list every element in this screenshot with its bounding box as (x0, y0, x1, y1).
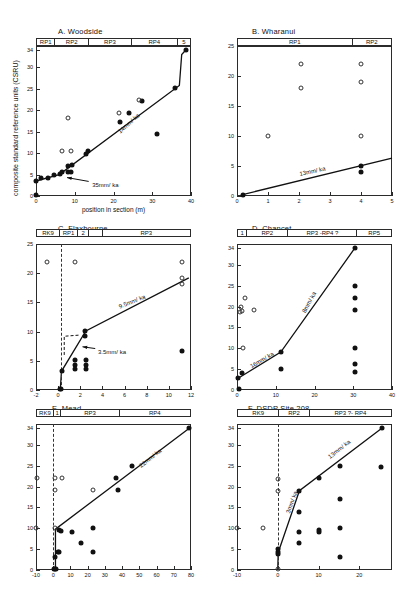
data-point-solid (297, 540, 302, 545)
y-tick-label-A-1: 5 (19, 172, 33, 178)
y-tick-F-6 (237, 445, 241, 446)
data-point-open (65, 116, 70, 121)
y-tick-label-A-5: 25 (19, 86, 33, 92)
x-tick-label-E-6: 50 (136, 572, 142, 578)
x-tick-label-C-6: 10 (166, 392, 172, 398)
y-tick-label-E-0: 0 (19, 567, 33, 573)
data-point-solid (38, 176, 43, 181)
zone-A-2: RP3 (89, 39, 132, 45)
x-tick-label-A-4: 40 (188, 198, 194, 204)
data-point-open (359, 62, 364, 67)
y-tick-E-5 (36, 466, 40, 467)
data-point-solid (46, 175, 51, 180)
x-tick-E-6 (139, 566, 140, 570)
data-point-solid (129, 463, 134, 468)
y-tick-label-D-2: 10 (220, 345, 234, 351)
data-point-open (242, 296, 247, 301)
data-point-open (275, 567, 280, 572)
y-tick-A-4 (36, 110, 40, 111)
zone-bar-A: RP1RP2RP3RP45 (36, 38, 191, 46)
x-tick-label-C-0: -2 (34, 392, 39, 398)
y-tick-label-D-4: 20 (220, 304, 234, 310)
plot-area-F (237, 424, 392, 570)
y-tick-C-0 (36, 390, 40, 391)
zone-C-2: 2 (78, 230, 89, 236)
data-point-open (72, 259, 77, 264)
x-tick-label-A-2: 20 (110, 198, 116, 204)
data-point-solid (53, 566, 58, 571)
data-point-solid (60, 369, 65, 374)
data-point-open (276, 488, 281, 493)
data-point-solid (278, 367, 283, 372)
y-tick-C-3 (36, 302, 40, 303)
zone-C-1: RP1 (60, 230, 78, 236)
x-tick-label-E-0: -10 (32, 572, 40, 578)
data-point-solid (297, 509, 302, 514)
x-tick-B-4 (361, 192, 362, 196)
y-tick-C-5 (36, 244, 40, 245)
y-tick-label-E-5: 25 (19, 463, 33, 469)
x-tick-D-2 (315, 386, 316, 390)
data-point-solid (60, 170, 65, 175)
y-tick-F-3 (237, 507, 241, 508)
data-point-solid (173, 85, 178, 90)
y-tick-label-A-6: 30 (19, 64, 33, 70)
data-point-solid (352, 246, 357, 251)
data-point-solid (359, 164, 364, 169)
y-tick-B-2 (237, 136, 241, 137)
y-tick-B-5 (237, 46, 241, 47)
data-point-solid (276, 552, 281, 557)
x-tick-B-1 (268, 192, 269, 196)
data-point-solid (240, 371, 245, 376)
y-tick-label-E-2: 10 (19, 525, 33, 531)
y-tick-label-E-1: 5 (19, 546, 33, 552)
y-tick-label-D-5: 25 (220, 283, 234, 289)
y-tick-F-1 (237, 549, 241, 550)
y-tick-F-5 (237, 466, 241, 467)
zone-C-0: RK9 (37, 230, 60, 236)
data-point-open (34, 476, 39, 481)
y-tick-E-6 (36, 445, 40, 446)
y-tick-D-6 (237, 265, 241, 266)
y-tick-label-F-4: 20 (220, 484, 234, 490)
data-point-solid (240, 192, 245, 197)
zone-bar-E: RK91RP3RP4 (36, 409, 191, 417)
data-point-open (298, 86, 303, 91)
x-tick-label-B-2: 2 (297, 198, 300, 204)
data-point-solid (183, 48, 188, 53)
zone-bar-B: RP1RP2 (237, 38, 392, 46)
data-point-solid (317, 476, 322, 481)
zone-F-1: RP2 (279, 410, 310, 416)
y-tick-label-C-1: 5 (19, 358, 33, 364)
x-tick-B-3 (330, 192, 331, 196)
x-tick-label-E-8: 70 (171, 572, 177, 578)
zone-B-0: RP1 (238, 39, 353, 45)
rate-label-C-1: 3.5mm/ ka (98, 349, 126, 355)
y-tick-label-F-6: 30 (220, 442, 234, 448)
y-tick-E-7 (36, 428, 40, 429)
x-tick-label-F-3: 20 (356, 572, 362, 578)
zone-C-4: RP3 (103, 230, 190, 236)
zone-boundary-dashed-E (53, 424, 54, 570)
data-point-solid (155, 132, 160, 137)
data-point-solid (114, 475, 119, 480)
data-point-solid (337, 464, 342, 469)
x-axis-label: position in section (m) (36, 206, 191, 213)
data-point-open (53, 476, 58, 481)
y-tick-label-C-2: 10 (19, 329, 33, 335)
zone-E-3: RP4 (120, 410, 190, 416)
x-tick-label-C-4: 6 (123, 392, 126, 398)
x-tick-label-E-5: 40 (119, 572, 125, 578)
data-point-solid (51, 173, 56, 178)
x-tick-E-4 (105, 566, 106, 570)
y-tick-B-1 (237, 166, 241, 167)
zone-C-3 (89, 230, 103, 236)
data-point-solid (379, 426, 384, 431)
y-tick-label-D-6: 30 (220, 262, 234, 268)
x-tick-E-8 (174, 566, 175, 570)
x-tick-label-B-3: 3 (328, 198, 331, 204)
data-point-open (298, 62, 303, 67)
x-tick-label-E-7: 60 (153, 572, 159, 578)
data-point-solid (187, 426, 192, 431)
data-point-open (251, 307, 256, 312)
